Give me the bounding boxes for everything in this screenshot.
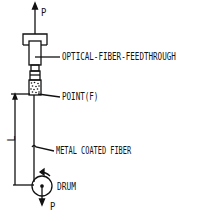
seal-speckle bbox=[30, 82, 40, 94]
feedthrough-neck bbox=[31, 65, 39, 71]
drum-label: DRUM bbox=[57, 180, 76, 192]
fiber-leader bbox=[32, 146, 54, 152]
top-force-arrowhead bbox=[33, 3, 38, 9]
feedthrough-label: OPTICAL-FIBER-FEEDTHROUGH bbox=[62, 50, 176, 62]
bottom-force-label: P bbox=[50, 200, 55, 213]
feedthrough-cap bbox=[23, 34, 47, 45]
length-label: L bbox=[5, 136, 18, 142]
top-force-label: P bbox=[41, 6, 46, 19]
bottom-force-arrowhead bbox=[40, 199, 45, 205]
fiber-label: METAL COATED FIBER bbox=[56, 144, 131, 156]
diagram-canvas bbox=[0, 0, 224, 221]
point-f-label: POINT(F) bbox=[62, 90, 98, 102]
feedthrough-body bbox=[29, 41, 41, 65]
